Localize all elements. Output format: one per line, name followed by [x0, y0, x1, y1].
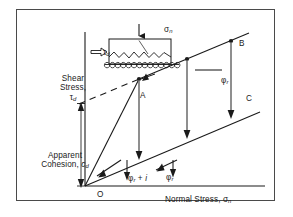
x-axis-label-text: Normal Stress, [165, 195, 223, 204]
plot-canvas [17, 10, 274, 200]
phi-r-plus-i-label: φr + i [128, 174, 147, 184]
arrow-dilation-at-a [136, 77, 143, 160]
x-axis-label: Normal Stress, σn [165, 195, 231, 205]
y-axis-label-subscript: d [73, 96, 76, 102]
arrow-apparent-cohesion [77, 102, 85, 188]
figure-border: Shear Stress, τd Apparent Cohesion, cd N… [16, 9, 275, 201]
apparent-cohesion-line1: Apparent [48, 151, 82, 160]
y-axis-label-line2: Stress, [60, 83, 86, 92]
apparent-cohesion-line2: Cohesion, [41, 160, 81, 169]
inset-sigma-n-label: σn [164, 25, 173, 35]
y-axis-label: Shear Stress, τd [47, 74, 99, 103]
phi-r-plus-i-operator: + [135, 174, 145, 183]
arrow-dilation-at-b [228, 39, 235, 119]
figure-root: Shear Stress, τd Apparent Cohesion, cd N… [0, 0, 293, 217]
inset-sigma-n-subscript: n [169, 28, 172, 34]
inset-specimen-box [109, 39, 171, 64]
phi-r-plus-i-tail: i [145, 174, 147, 183]
x-axis-label-subscript: n [228, 198, 231, 204]
point-c-label: C [246, 94, 252, 103]
apparent-cohesion-subscript: d [85, 163, 88, 169]
inset-tau-d-label: τd [103, 48, 110, 58]
phi-r-top-label: φr [221, 76, 228, 86]
origin-label: O [97, 190, 103, 199]
phi-r-bottom-subscript: r [171, 176, 173, 182]
inset-tau-d-subscript: d [106, 51, 109, 57]
point-a-label: A [140, 91, 146, 100]
point-b-label: B [239, 39, 245, 48]
y-axis-label-line1: Shear [62, 74, 84, 83]
phi-r-top-subscript: r [226, 79, 228, 85]
phi-r-bottom-label: φr [166, 173, 173, 183]
apparent-cohesion-label: Apparent Cohesion, cd [29, 151, 101, 170]
arrow-dilation-mid [184, 57, 191, 139]
